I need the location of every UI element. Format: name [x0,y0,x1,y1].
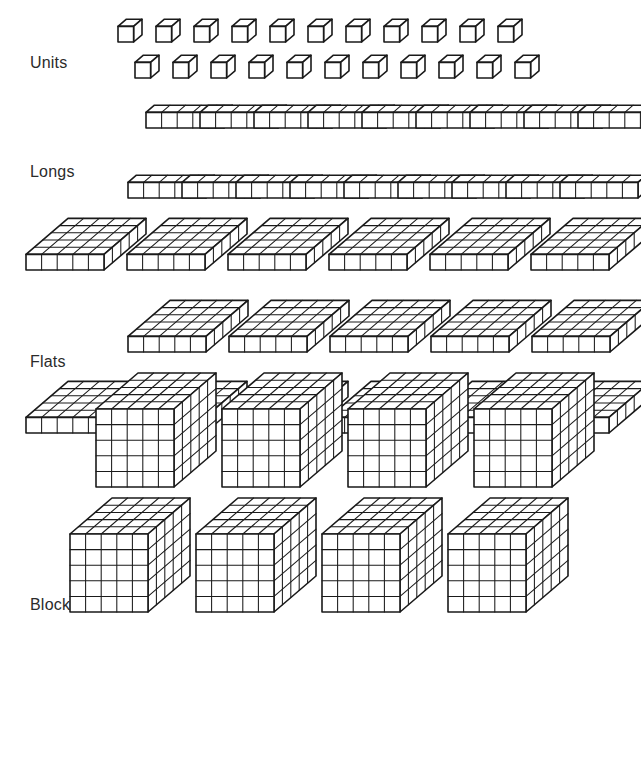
unit-cube [422,19,446,42]
long-rod [398,175,484,198]
long-rod [416,105,502,128]
block-cube [348,373,468,487]
long-rod [344,175,430,198]
piece-row-longs [128,105,641,198]
piece-line-blocks-2 [70,498,568,612]
long-rod [254,105,340,128]
flat-slab [228,381,348,433]
unit-cube [401,55,425,78]
unit-cube [270,19,294,42]
flat-slab [430,218,550,270]
row-label-units: Units [30,54,67,72]
unit-cube [363,55,387,78]
piece-line-blocks-1 [96,373,594,487]
long-rod [308,105,394,128]
flat-slab [228,218,348,270]
unit-cube [515,55,539,78]
row-label-longs: Longs [30,163,75,181]
flat-slab [329,218,449,270]
flat-slab [329,381,449,433]
flat-slab [26,218,146,270]
unit-cube [249,55,273,78]
unit-cube [346,19,370,42]
piece-line-units-2 [135,55,539,78]
flat-slab [330,300,450,352]
unit-cube [460,19,484,42]
piece-row-flats [26,218,641,433]
piece-line-flats-1 [26,218,641,270]
long-rod [452,175,538,198]
unit-cube [173,55,197,78]
unit-cube [384,19,408,42]
piece-line-longs-1 [146,105,641,128]
base-five-blocks-drawing [0,0,641,757]
unit-cube [325,55,349,78]
piece-line-flats-2 [128,300,641,352]
long-rod [146,105,232,128]
unit-cube [232,19,256,42]
long-rod [290,175,376,198]
long-rod [200,105,286,128]
flat-slab [430,381,550,433]
unit-cube [194,19,218,42]
block-cube [474,373,594,487]
flat-slab [127,218,247,270]
long-rod [578,105,641,128]
long-rod [560,175,641,198]
long-rod [470,105,556,128]
piece-line-longs-2 [128,175,641,198]
unit-cube [477,55,501,78]
unit-cube [211,55,235,78]
flat-slab [127,381,247,433]
flat-slab [531,218,641,270]
block-cube [222,373,342,487]
long-rod [362,105,448,128]
flat-slab [128,300,248,352]
flat-slab [532,300,641,352]
piece-line-units-1 [118,19,522,42]
piece-line-flats-3 [26,381,641,433]
unit-cube [135,55,159,78]
unit-cube [118,19,142,42]
unit-cube [287,55,311,78]
block-cube [448,498,568,612]
flat-slab [229,300,349,352]
flat-slab [431,300,551,352]
row-label-blocks: Blocks [30,596,78,614]
unit-cube [308,19,332,42]
unit-cube [156,19,180,42]
piece-row-blocks [70,373,594,612]
flat-slab [531,381,641,433]
block-cube [196,498,316,612]
unit-cube [498,19,522,42]
manipulatives-figure: Units Longs Flats Blocks [0,0,641,757]
unit-cube [439,55,463,78]
block-cube [70,498,190,612]
block-cube [96,373,216,487]
row-label-flats: Flats [30,353,66,371]
flat-slab [26,381,146,433]
long-rod [128,175,214,198]
long-rod [236,175,322,198]
long-rod [182,175,268,198]
block-cube [322,498,442,612]
piece-row-units [118,19,539,78]
long-rod [524,105,610,128]
long-rod [506,175,592,198]
